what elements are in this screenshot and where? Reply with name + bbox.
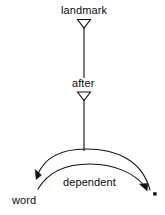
arrowhead-icon-word xyxy=(35,170,41,180)
endpoint-dot-icon xyxy=(153,192,156,195)
hollow-down-triangle-icon-landmark xyxy=(78,20,91,29)
node-label-after: after xyxy=(72,77,95,89)
node-label-word: word xyxy=(12,194,36,206)
hollow-down-triangle-icon-after xyxy=(78,92,91,101)
edge-label-dependent: dependent xyxy=(63,176,116,188)
node-label-landmark: landmark xyxy=(61,4,107,16)
diagram-canvas: landmark after dependent word xyxy=(0,0,165,215)
arrowhead-icon-right xyxy=(140,183,148,190)
